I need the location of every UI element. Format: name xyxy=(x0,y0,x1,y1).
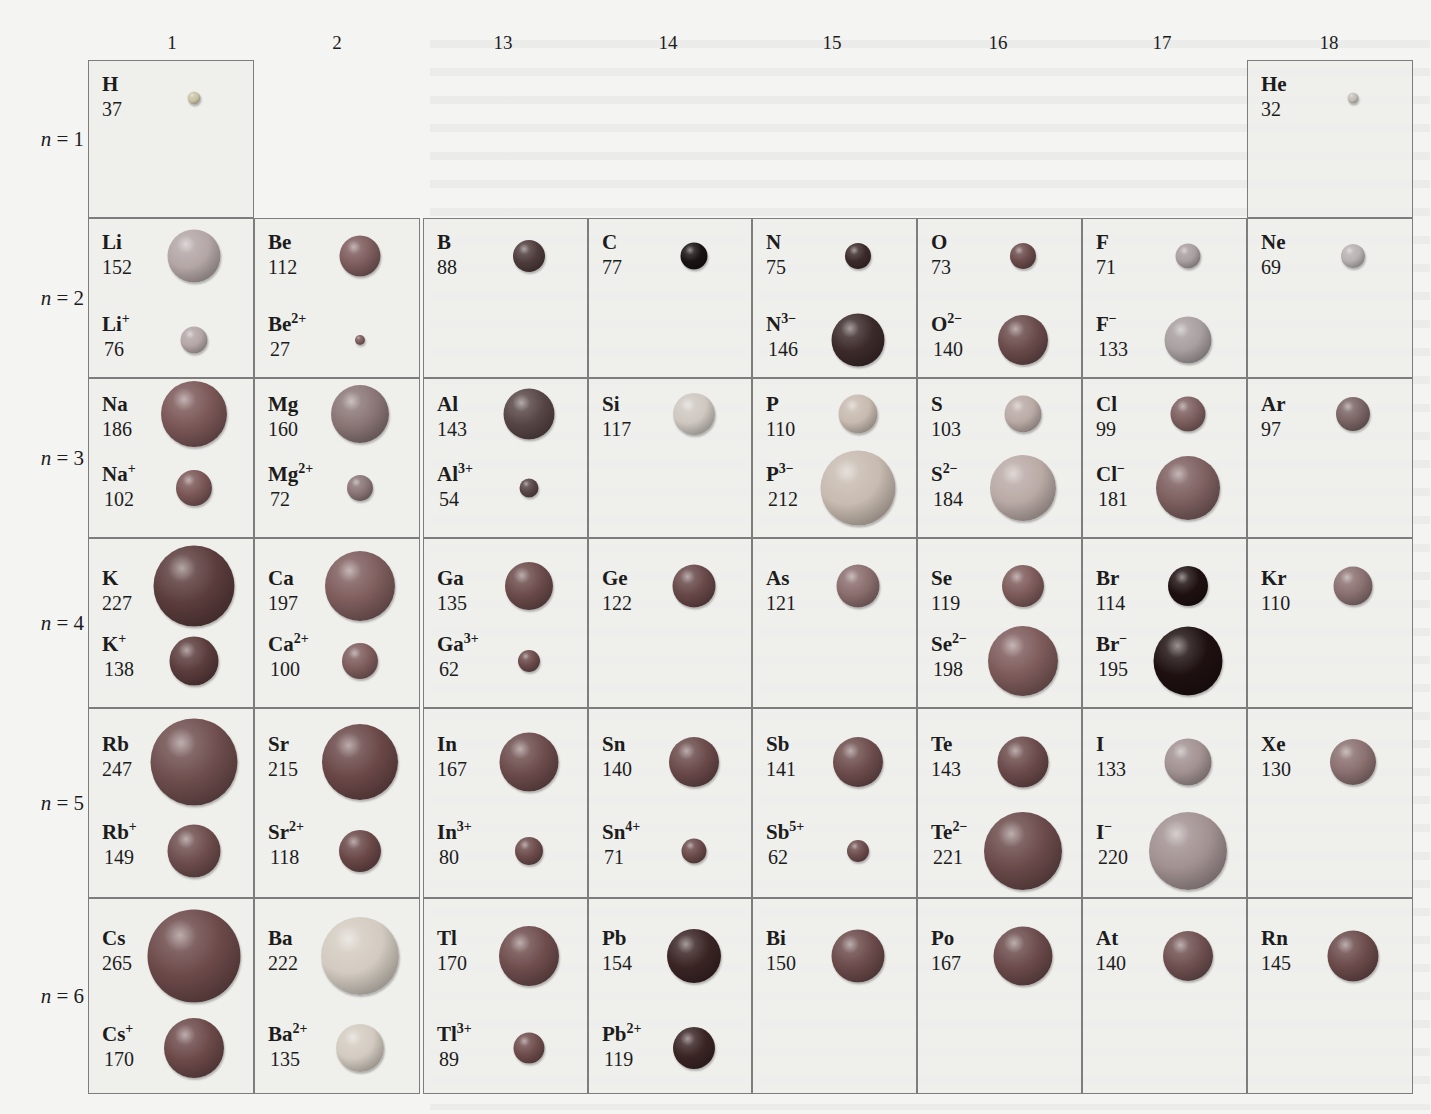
radius-value: 37 xyxy=(102,99,122,119)
period-variable: n xyxy=(41,127,52,151)
element-symbol: Br xyxy=(1096,568,1119,589)
element-symbol: B xyxy=(437,232,451,253)
symbol-text: Br xyxy=(1096,566,1119,590)
radius-value: 62 xyxy=(439,659,459,679)
atom-sphere-icon xyxy=(340,236,381,277)
element-symbol: Rn xyxy=(1261,928,1288,949)
charge-superscript: 2+ xyxy=(298,461,313,476)
ion-symbol: Se2− xyxy=(931,634,967,655)
atom-sphere-icon xyxy=(1165,739,1212,786)
radius-value: 150 xyxy=(766,953,796,973)
symbol-text: Se xyxy=(931,632,952,656)
element-symbol: C xyxy=(602,232,617,253)
charge-superscript: + xyxy=(125,1021,133,1036)
element-symbol: Ca xyxy=(268,568,294,589)
atom-sphere-icon xyxy=(845,243,871,269)
atom-sphere-icon xyxy=(331,385,389,443)
atom-sphere-icon xyxy=(669,737,719,787)
ion-symbol: Sb5+ xyxy=(766,822,804,843)
radius-value: 145 xyxy=(1261,953,1291,973)
ion-sphere-icon xyxy=(990,455,1056,521)
atom-sphere-icon xyxy=(188,92,201,105)
charge-superscript: − xyxy=(1117,461,1125,476)
ion-symbol: Br− xyxy=(1096,634,1127,655)
symbol-text: O xyxy=(931,312,947,336)
element-symbol: I xyxy=(1096,734,1104,755)
radius-value: 220 xyxy=(1098,847,1128,867)
period-variable: n xyxy=(41,984,52,1008)
ion-symbol: Te2− xyxy=(931,822,967,843)
symbol-text: Be xyxy=(268,230,291,254)
atom-sphere-icon xyxy=(1010,243,1036,269)
radius-value: 77 xyxy=(602,257,622,277)
radius-value: 71 xyxy=(604,847,624,867)
radius-value: 130 xyxy=(1261,759,1291,779)
radius-value: 119 xyxy=(931,593,960,613)
radius-value: 227 xyxy=(102,593,132,613)
radius-value: 100 xyxy=(270,659,300,679)
charge-superscript: 3− xyxy=(779,461,794,476)
ion-symbol: Tl3+ xyxy=(437,1024,472,1045)
group-label: 13 xyxy=(483,32,523,54)
element-symbol: N xyxy=(766,232,781,253)
atom-sphere-icon xyxy=(994,927,1053,986)
ion-sphere-icon xyxy=(342,643,378,679)
ion-sphere-icon xyxy=(164,1018,224,1078)
element-symbol: Rb xyxy=(102,734,129,755)
radius-value: 212 xyxy=(768,489,798,509)
radius-value: 167 xyxy=(437,759,467,779)
atom-sphere-icon xyxy=(1171,397,1206,432)
atom-sphere-icon xyxy=(322,724,398,800)
radius-value: 110 xyxy=(1261,593,1290,613)
radius-value: 122 xyxy=(602,593,632,613)
radius-value: 80 xyxy=(439,847,459,867)
symbol-text: Pb xyxy=(602,1022,627,1046)
ion-symbol: Be2+ xyxy=(268,314,306,335)
period-number: 1 xyxy=(74,127,85,151)
element-symbol: P xyxy=(766,394,779,415)
atom-sphere-icon xyxy=(1328,931,1379,982)
element-symbol: K xyxy=(102,568,118,589)
atom-sphere-icon xyxy=(1168,566,1208,606)
radius-value: 197 xyxy=(268,593,298,613)
ion-sphere-icon xyxy=(821,451,896,526)
charge-superscript: − xyxy=(1109,311,1117,326)
ion-symbol: Cl− xyxy=(1096,464,1125,485)
symbol-text: Ca xyxy=(268,632,294,656)
symbol-text: Al xyxy=(437,392,458,416)
element-cell-ga xyxy=(423,538,588,708)
symbol-text: P xyxy=(766,462,779,486)
ion-sphere-icon xyxy=(176,470,212,506)
atom-sphere-icon xyxy=(681,243,708,270)
ion-symbol: Sn4+ xyxy=(602,822,640,843)
element-symbol: Ba xyxy=(268,928,293,949)
symbol-text: Se xyxy=(931,566,952,590)
radius-value: 140 xyxy=(602,759,632,779)
atom-sphere-icon xyxy=(1330,739,1376,785)
ion-sphere-icon xyxy=(847,840,869,862)
symbol-text: Rb xyxy=(102,732,129,756)
radius-value: 167 xyxy=(931,953,961,973)
radius-value: 140 xyxy=(933,339,963,359)
group-label: 14 xyxy=(648,32,688,54)
symbol-text: Sr xyxy=(268,820,289,844)
radius-value: 170 xyxy=(437,953,467,973)
radius-value: 118 xyxy=(270,847,299,867)
element-symbol: Pb xyxy=(602,928,627,949)
ion-symbol: Li+ xyxy=(102,314,130,335)
atom-sphere-icon xyxy=(1002,565,1044,607)
radius-value: 121 xyxy=(766,593,796,613)
symbol-text: Cs xyxy=(102,926,125,950)
radius-value: 146 xyxy=(768,339,798,359)
element-symbol: Ge xyxy=(602,568,628,589)
symbol-text: As xyxy=(766,566,789,590)
radius-value: 117 xyxy=(602,419,631,439)
period-variable: n xyxy=(41,611,52,635)
atom-sphere-icon xyxy=(505,562,553,610)
radius-value: 114 xyxy=(1096,593,1125,613)
atom-sphere-icon xyxy=(1005,396,1042,433)
period-number: 6 xyxy=(74,984,85,1008)
symbol-text: Sn xyxy=(602,732,625,756)
symbol-text: Te xyxy=(931,732,952,756)
period-number: 5 xyxy=(74,791,85,815)
